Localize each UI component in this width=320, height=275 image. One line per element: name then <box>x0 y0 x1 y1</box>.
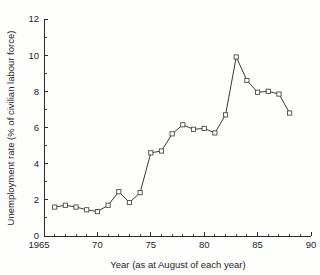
x-axis-tick-labels: 19657075808590 <box>28 239 316 250</box>
x-tick-label: 75 <box>146 239 157 250</box>
y-tick-label: 2 <box>34 194 39 205</box>
data-point-marker <box>106 203 110 207</box>
y-axis-tick-labels: 024681012 <box>28 13 39 241</box>
x-tick-label: 85 <box>252 239 263 250</box>
y-tick-label: 12 <box>28 13 39 24</box>
data-point-marker <box>63 203 67 207</box>
data-point-marker <box>53 205 57 209</box>
unemployment-rate-line-chart: 024681012 19657075808590 Year (as at Aug… <box>0 0 320 275</box>
data-series-unemployment-rate <box>53 55 292 214</box>
data-point-marker <box>288 111 292 115</box>
y-tick-label: 8 <box>34 86 39 97</box>
data-point-marker <box>85 208 89 212</box>
data-point-marker <box>202 126 206 130</box>
data-point-marker <box>266 89 270 93</box>
y-axis-major-ticks <box>44 19 48 236</box>
x-tick-label: 90 <box>306 239 317 250</box>
data-point-marker <box>149 151 153 155</box>
data-point-marker <box>127 200 131 204</box>
x-tick-label: 1965 <box>28 239 49 250</box>
y-axis: 024681012 <box>28 13 48 241</box>
data-point-marker <box>256 90 260 94</box>
x-tick-label: 70 <box>92 239 103 250</box>
series-markers <box>53 55 292 214</box>
y-tick-label: 6 <box>34 122 39 133</box>
chart-canvas: 024681012 19657075808590 Year (as at Aug… <box>0 0 320 275</box>
data-point-marker <box>138 191 142 195</box>
data-point-marker <box>277 92 281 96</box>
data-point-marker <box>234 55 238 59</box>
data-point-marker <box>223 113 227 117</box>
y-tick-label: 10 <box>28 50 39 61</box>
y-axis-title: Unemployment rate (% of civilian labour … <box>5 31 16 226</box>
x-axis: 19657075808590 <box>28 232 316 250</box>
data-point-marker <box>191 127 195 131</box>
data-point-marker <box>95 209 99 213</box>
x-axis-major-ticks <box>44 232 311 236</box>
x-tick-label: 80 <box>199 239 210 250</box>
x-axis-title: Year (as at August of each year) <box>110 259 245 270</box>
data-point-marker <box>117 190 121 194</box>
data-point-marker <box>170 132 174 136</box>
data-point-marker <box>245 78 249 82</box>
data-point-marker <box>159 149 163 153</box>
data-point-marker <box>74 205 78 209</box>
data-point-marker <box>213 131 217 135</box>
y-tick-label: 4 <box>34 158 39 169</box>
data-point-marker <box>181 123 185 127</box>
